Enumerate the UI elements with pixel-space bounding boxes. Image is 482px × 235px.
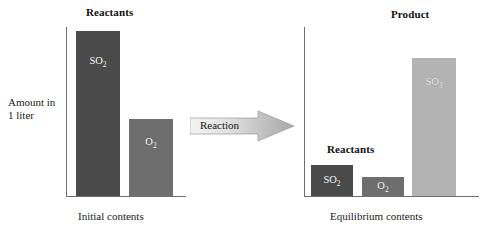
left-bar-o2: O2 (129, 119, 173, 196)
right-bar-so3-label: SO3 (412, 76, 456, 87)
left-bar-so2: SO2 (76, 31, 120, 196)
y-axis-label-line1: Amount in (8, 96, 55, 108)
right-chart-reactants-heading: Reactants (327, 143, 374, 155)
y-axis-label: Amount in 1 liter (8, 96, 55, 122)
left-chart-x-caption: Initial contents (78, 210, 144, 222)
right-bar-so2: SO2 (311, 165, 353, 196)
right-bar-so2-label: SO2 (311, 174, 353, 185)
left-chart-x-axis (66, 196, 186, 197)
figure-canvas: Reactants Amount in 1 liter SO2 O2 Initi… (0, 0, 482, 235)
right-chart-x-caption: Equilibrium contents (330, 210, 423, 222)
left-chart-heading: Reactants (86, 6, 133, 18)
left-chart-y-axis (66, 27, 67, 197)
reaction-arrow-label: Reaction (200, 119, 239, 131)
right-chart-product-heading: Product (391, 8, 429, 20)
y-axis-label-line2: 1 liter (8, 109, 34, 121)
right-bar-o2: O2 (362, 177, 404, 196)
right-chart-y-axis (304, 27, 305, 197)
right-chart: Product Reactants SO2 O2 SO3 Equilibrium… (241, 0, 482, 235)
right-bar-o2-label: O2 (362, 180, 404, 191)
left-bar-o2-label: O2 (129, 136, 173, 147)
right-chart-x-axis (304, 196, 479, 197)
right-bar-so3: SO3 (412, 58, 456, 196)
left-bar-so2-label: SO2 (76, 55, 120, 66)
